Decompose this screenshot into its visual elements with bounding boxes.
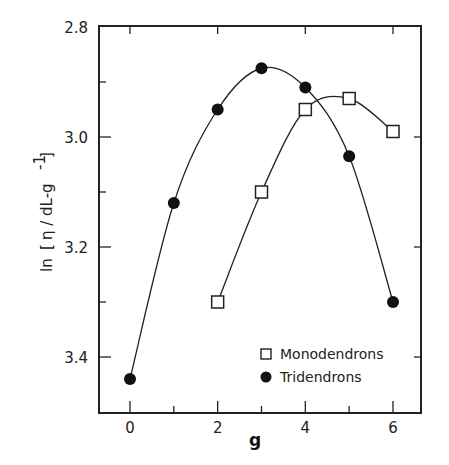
- legend-label-tridendrons: Tridendrons: [279, 369, 362, 385]
- y-axis-label-bracket-open: [: [38, 244, 56, 250]
- y-tick-label: 2.8: [64, 19, 88, 37]
- marker-tridendrons: [343, 150, 355, 162]
- marker-tridendrons: [212, 104, 224, 116]
- legend-label-monodendrons: Monodendrons: [280, 346, 384, 362]
- marker-monodendrons: [387, 126, 399, 138]
- y-axis-label-prefix: ln: [38, 258, 56, 272]
- marker-tridendrons: [168, 197, 180, 209]
- x-tick-label: 6: [388, 419, 398, 437]
- legend-marker-tridendrons: [261, 372, 272, 383]
- y-tick-label: 3.0: [64, 129, 88, 147]
- marker-tridendrons: [299, 82, 311, 94]
- marker-monodendrons: [343, 93, 355, 105]
- y-axis-label-body: η / dL-g: [38, 183, 56, 240]
- marker-monodendrons: [299, 104, 311, 116]
- marker-tridendrons: [124, 373, 136, 385]
- curve-monodendrons: [218, 96, 393, 302]
- x-axis-label: g: [249, 430, 261, 450]
- x-tick-label: 2: [213, 419, 223, 437]
- chart: 02462.83.03.23.4 g ln [ η / dL-g -1 ] Mo…: [0, 0, 449, 465]
- marker-tridendrons: [387, 296, 399, 308]
- marker-monodendrons: [212, 296, 224, 308]
- x-tick-label: 0: [125, 419, 135, 437]
- legend-marker-monodendrons: [261, 349, 271, 359]
- y-tick-label: 3.4: [64, 349, 88, 367]
- y-axis-label-bracket-close: ]: [38, 152, 56, 158]
- y-axis-label: ln [ η / dL-g -1 ]: [31, 152, 56, 272]
- marker-tridendrons: [256, 62, 268, 74]
- x-tick-label: 4: [301, 419, 311, 437]
- legend: Monodendrons Tridendrons: [261, 346, 384, 385]
- marker-monodendrons: [256, 186, 268, 198]
- curve-tridendrons: [130, 67, 393, 379]
- y-tick-label: 3.2: [64, 239, 88, 257]
- series-markers: [124, 62, 399, 385]
- series-curves: [130, 67, 393, 379]
